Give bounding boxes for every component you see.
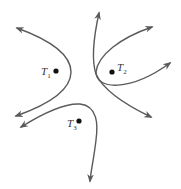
curve-t2-b <box>96 27 170 85</box>
point-t1-dot <box>53 68 58 73</box>
trajectory-diagram: T1 T2 T3 <box>0 0 181 189</box>
curve-t3 <box>21 104 97 181</box>
point-t2-dot <box>109 69 114 74</box>
label-t2: T2 <box>117 61 127 76</box>
label-t1: T1 <box>41 65 51 80</box>
label-t3: T3 <box>67 117 77 132</box>
point-t3-dot <box>76 118 81 123</box>
